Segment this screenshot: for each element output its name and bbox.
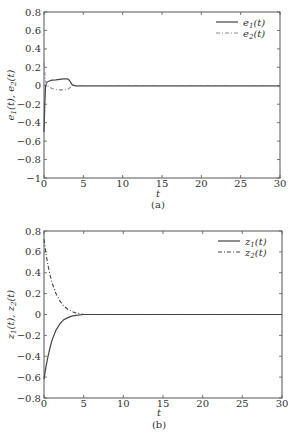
y-tick-label: 0.6 bbox=[25, 25, 41, 36]
series-line-1 bbox=[44, 315, 282, 380]
y-tick-label: 0.6 bbox=[25, 246, 41, 257]
y-tick-label: 0 bbox=[35, 80, 41, 91]
y-tick-label: −0.4 bbox=[17, 351, 41, 362]
legend-label: e2(t) bbox=[243, 28, 265, 41]
x-tick-label: 0 bbox=[41, 178, 47, 189]
figure: 0.80.60.40.20−0.2−0.4−0.6−0.8−1051015202… bbox=[0, 0, 288, 436]
x-tick-label: 10 bbox=[117, 398, 130, 409]
y-tick-label: 0.4 bbox=[25, 267, 41, 278]
y-tick-label: −0.4 bbox=[17, 117, 41, 128]
x-tick-label: 25 bbox=[236, 398, 249, 409]
x-tick-label: 10 bbox=[116, 178, 129, 189]
y-tick-label: −1 bbox=[26, 173, 41, 184]
x-tick-label: 5 bbox=[80, 398, 86, 409]
x-tick-label: 30 bbox=[276, 398, 288, 409]
x-tick-label: 5 bbox=[80, 178, 86, 189]
x-axis-label: t bbox=[156, 188, 161, 199]
y-tick-label: 0.8 bbox=[25, 226, 41, 237]
chart-panel-a: 0.80.60.40.20−0.2−0.4−0.6−0.8−1051015202… bbox=[5, 7, 286, 211]
x-tick-label: 20 bbox=[195, 178, 208, 189]
x-tick-label: 25 bbox=[234, 178, 247, 189]
y-axis-label: e1(t), e2(t) bbox=[5, 70, 18, 121]
series-line-1 bbox=[44, 79, 280, 132]
y-tick-label: −0.6 bbox=[17, 372, 41, 383]
x-tick-label: 30 bbox=[274, 178, 287, 189]
y-tick-label: −0.8 bbox=[17, 154, 41, 165]
y-tick-label: −0.8 bbox=[17, 393, 41, 404]
y-tick-label: 0.8 bbox=[25, 7, 41, 18]
panel-caption: (a) bbox=[151, 199, 165, 210]
y-tick-label: −0.2 bbox=[17, 330, 41, 341]
panel-caption: (b) bbox=[152, 419, 166, 430]
y-tick-label: 0.2 bbox=[25, 62, 41, 73]
x-tick-label: 20 bbox=[196, 398, 209, 409]
y-tick-label: 0 bbox=[35, 309, 41, 320]
y-tick-label: 0.2 bbox=[25, 288, 41, 299]
y-tick-label: −0.6 bbox=[17, 136, 41, 147]
y-tick-label: 0.4 bbox=[25, 43, 41, 54]
legend-label: z2(t) bbox=[244, 247, 267, 260]
y-tick-label: −0.2 bbox=[17, 99, 41, 110]
chart-panel-b: 0.80.60.40.20−0.2−0.4−0.6−0.805101520253… bbox=[5, 226, 288, 431]
y-axis-label: z1(t), z2(t) bbox=[5, 290, 18, 341]
x-tick-label: 0 bbox=[41, 398, 47, 409]
